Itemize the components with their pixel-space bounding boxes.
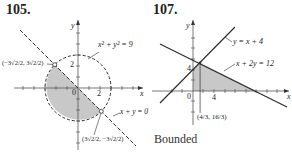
axis-y-label-105: y [71,21,75,30]
point-label-107: (4/3, 16/3) [197,113,227,121]
line-equation-label-105: x + y = 0 [120,107,148,116]
bounded-caption: Bounded [154,132,197,147]
line2-equation-label: x + 2y = 12 [236,59,274,68]
line-y-equals-x-plus-4 [160,27,235,103]
point-label-lower-right: (3√2/2, −3√2/2) [82,135,124,142]
line1-equation-label: y = x + 4 [233,37,263,46]
axis-x-label-107: x [287,92,291,101]
tick-y-label-107: 4 [187,64,191,73]
tick-x-label-107: 4 [212,93,216,102]
circle-equation-label: x² + y² = 9 [98,40,133,49]
line-x-plus-2y-12 [160,44,287,107]
tick-y-label-105: 2 [70,60,74,69]
tick-x-label-105: 2 [97,89,101,98]
origin-label-105: 0 [72,88,76,97]
origin-label-107: 0 [187,92,191,101]
graph-107 [146,0,292,152]
axis-y-label-107: y [186,21,190,30]
point-label-upper-left: (−3√2/2, 3√2/2) [2,59,44,66]
axis-x-label-105: x [140,89,144,98]
